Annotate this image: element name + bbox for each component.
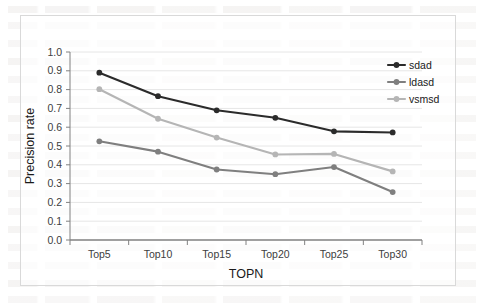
data-point-ldasd-Top15 [214, 167, 220, 173]
x-axis-title: TOPN [229, 267, 264, 281]
legend-label-sdad: sdad [409, 59, 432, 71]
y-gridlines [70, 52, 422, 221]
y-axis-tick-label: 0.4 [47, 158, 62, 170]
x-axis-tick-label: Top15 [202, 248, 231, 260]
line-chart: 0.00.10.20.30.40.50.60.70.80.91.0Precisi… [0, 0, 484, 307]
legend: sdadldasdvsmsd [388, 59, 439, 105]
series-line-vsmsd [99, 89, 392, 171]
x-axis-tick-label: Top20 [261, 248, 290, 260]
y-axis-tick-label: 0.7 [47, 102, 62, 114]
y-axis-title-label: Precision rate [23, 108, 37, 184]
x-axis-tick-label: Top10 [144, 248, 173, 260]
data-point-sdad-Top25 [331, 128, 337, 134]
legend-marker-sdad [394, 62, 400, 68]
data-point-vsmsd-Top10 [155, 116, 161, 122]
data-point-sdad-Top30 [390, 130, 396, 136]
y-axis-tick-label: 0.0 [47, 234, 62, 246]
data-point-ldasd-Top30 [390, 189, 396, 195]
data-point-ldasd-Top5 [96, 138, 102, 144]
legend-label-ldasd: ldasd [409, 76, 434, 88]
x-axis-title-label: TOPN [229, 267, 264, 281]
y-axis-tick-label: 0.6 [47, 121, 62, 133]
data-point-sdad-Top10 [155, 93, 161, 99]
data-point-ldasd-Top10 [155, 149, 161, 155]
series-line-sdad [99, 73, 392, 133]
y-axis-title: Precision rate [23, 108, 37, 184]
y-axis-tick-label: 0.5 [47, 140, 62, 152]
legend-marker-ldasd [394, 79, 400, 85]
data-point-vsmsd-Top25 [331, 151, 337, 157]
y-axis-tick-label: 0.2 [47, 196, 62, 208]
data-point-sdad-Top5 [96, 70, 102, 76]
y-axis-tick-label: 0.1 [47, 215, 62, 227]
data-point-ldasd-Top20 [272, 171, 278, 177]
y-axis-tick-label: 0.3 [47, 177, 62, 189]
data-point-sdad-Top20 [272, 115, 278, 121]
data-point-vsmsd-Top30 [390, 168, 396, 174]
series-sdad [96, 70, 395, 136]
data-point-vsmsd-Top20 [272, 152, 278, 158]
y-axis-tick-label: 1.0 [47, 46, 62, 58]
legend-marker-vsmsd [394, 96, 400, 102]
series-vsmsd [96, 86, 395, 174]
y-axis-tick-label: 0.8 [47, 83, 62, 95]
legend-label-vsmsd: vsmsd [409, 93, 439, 105]
y-axis-tick-label: 0.9 [47, 64, 62, 76]
x-axis-tick-label: Top5 [88, 248, 111, 260]
x-axis: Top5Top10Top15Top20Top25Top30 [70, 240, 422, 260]
y-axis: 0.00.10.20.30.40.50.60.70.80.91.0 [47, 46, 70, 246]
data-point-vsmsd-Top15 [214, 135, 220, 141]
data-point-ldasd-Top25 [331, 164, 337, 170]
x-axis-tick-label: Top25 [320, 248, 349, 260]
data-point-vsmsd-Top5 [96, 86, 102, 92]
x-axis-tick-label: Top30 [378, 248, 407, 260]
series-line-ldasd [99, 141, 392, 192]
data-point-sdad-Top15 [214, 107, 220, 113]
